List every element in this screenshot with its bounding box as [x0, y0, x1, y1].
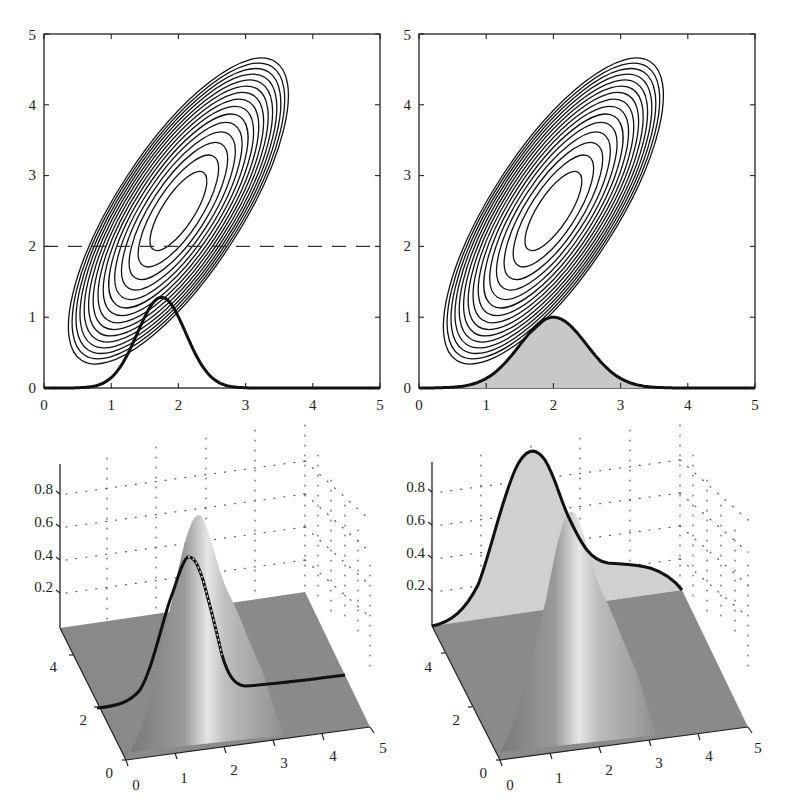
x-tick-label: 1 [555, 770, 563, 786]
z-tick-label: 0.8 [406, 479, 425, 495]
x-tick-label: 0 [506, 777, 514, 793]
y-tick-label: 1 [404, 309, 412, 325]
x-tick-label: 2 [175, 397, 183, 413]
x-tick-label: 4 [309, 397, 317, 413]
x-tick-label: 1 [180, 770, 188, 786]
y-axis-labels: 0 1 2 3 4 5 [404, 27, 412, 396]
x-tick-label: 4 [705, 748, 713, 764]
panel-top-left-contour: 0 1 2 3 4 5 0 1 2 3 4 5 [29, 27, 384, 413]
z-tick-label: 0.4 [406, 545, 425, 561]
z-tick-label: 0.8 [34, 481, 53, 497]
x-tick-label: 5 [379, 740, 387, 756]
y-tick-label: 5 [29, 27, 37, 43]
x-tick-label: 0 [132, 777, 140, 793]
y-tick-label: 0 [404, 380, 412, 396]
x-tick-label: 5 [376, 397, 384, 413]
x-axis-labels: 0 1 2 3 4 5 [40, 397, 384, 413]
y-tick-label: 4 [425, 659, 433, 675]
x-tick-label: 3 [280, 755, 288, 771]
x-tick-label: 5 [754, 740, 762, 756]
y-tick-label: 4 [29, 97, 37, 113]
y-tick-label: 3 [404, 167, 412, 183]
panel-top-right-contour: 0 1 2 3 4 5 0 1 2 3 4 5 [404, 27, 759, 413]
y-tick-label: 4 [50, 659, 58, 675]
x-tick-label: 3 [617, 397, 625, 413]
x-tick-label: 5 [751, 397, 759, 413]
y-tick-label: 0 [106, 765, 114, 781]
x-tick-label: 2 [550, 397, 558, 413]
x-tick-label: 0 [415, 397, 423, 413]
z-tick-label: 0.2 [34, 579, 53, 595]
y-tick-label: 0 [29, 380, 37, 396]
x-tick-label: 1 [107, 397, 115, 413]
x-tick-label: 3 [655, 755, 663, 771]
z-tick-label: 0.6 [34, 514, 53, 530]
y-tick-label: 2 [453, 712, 461, 728]
x-axis-labels: 0 1 2 3 4 5 [415, 397, 759, 413]
x-tick-label: 1 [482, 397, 490, 413]
z-axis-labels: 0.8 0.6 0.4 0.2 [406, 479, 425, 593]
x-tick-label: 2 [230, 762, 238, 778]
x-tick-label: 4 [684, 397, 692, 413]
y-tick-label: 2 [80, 712, 88, 728]
x-tick-label: 0 [40, 397, 48, 413]
y-tick-label: 3 [29, 167, 37, 183]
y-tick-label: 2 [404, 238, 412, 254]
y-tick-label: 0 [480, 765, 488, 781]
y-tick-label: 2 [29, 238, 37, 254]
y-tick-label: 4 [404, 97, 412, 113]
y-axis-labels: 0 1 2 3 4 5 [29, 27, 37, 396]
y-tick-label: 5 [404, 27, 412, 43]
figure: 0 1 2 3 4 5 0 1 2 3 4 5 0 1 2 3 4 5 [0, 0, 789, 811]
z-axis-labels: 0.8 0.6 0.4 0.2 [34, 481, 53, 595]
y-tick-label: 1 [29, 309, 37, 325]
z-tick-label: 0.2 [406, 577, 425, 593]
x-tick-label: 4 [329, 748, 337, 764]
panel-bottom-left-surface: 0.8 0.6 0.4 0.2 4 2 0 0 1 2 3 4 5 [34, 425, 387, 793]
panel-bottom-right-surface: 0.8 0.6 0.4 0.2 4 2 0 0 1 2 3 4 5 [406, 425, 762, 793]
x-tick-label: 3 [242, 397, 250, 413]
z-tick-label: 0.6 [406, 512, 425, 528]
z-tick-label: 0.4 [34, 547, 53, 563]
x-tick-label: 2 [605, 762, 613, 778]
